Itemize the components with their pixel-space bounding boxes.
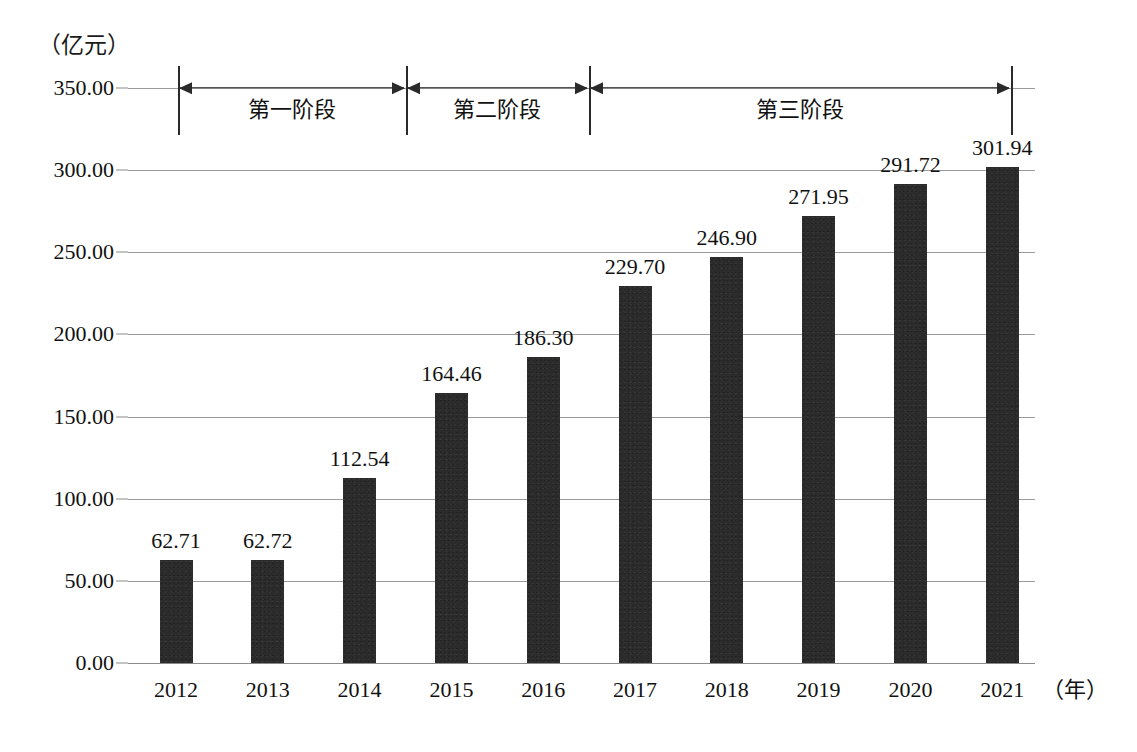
y-axis-tick-label: 50.00 bbox=[18, 570, 114, 592]
y-axis-tick-label: 150.00 bbox=[18, 406, 114, 428]
x-axis-tick-label: 2021 bbox=[980, 679, 1024, 701]
phase-label: 第三阶段 bbox=[756, 99, 844, 121]
y-axis-tick-label: 100.00 bbox=[18, 488, 114, 510]
y-axis-tick-label: 200.00 bbox=[18, 323, 114, 345]
y-axis-tick-mark bbox=[116, 498, 128, 499]
bar-value-label: 186.30 bbox=[513, 327, 574, 349]
x-axis-tick-label: 2019 bbox=[797, 679, 841, 701]
y-axis-tick-label: 300.00 bbox=[18, 159, 114, 181]
x-axis-tick-label: 2014 bbox=[338, 679, 382, 701]
bar bbox=[343, 478, 376, 663]
bar bbox=[160, 560, 193, 663]
x-axis-tick-label: 2013 bbox=[246, 679, 290, 701]
phase-range-arrow bbox=[591, 87, 1009, 88]
bar-value-label: 62.72 bbox=[243, 530, 293, 552]
y-axis-unit-label: （亿元） bbox=[38, 26, 130, 60]
y-axis-tick-label: 0.00 bbox=[18, 652, 114, 674]
phase-range-arrow bbox=[408, 87, 588, 88]
phase-label: 第一阶段 bbox=[248, 99, 336, 121]
bar bbox=[251, 560, 284, 663]
bar-value-label: 62.71 bbox=[151, 530, 201, 552]
bar bbox=[710, 257, 743, 663]
bar bbox=[986, 167, 1019, 663]
y-axis-tick-label: 250.00 bbox=[18, 241, 114, 263]
phase-label: 第二阶段 bbox=[453, 99, 541, 121]
y-axis-tick-mark bbox=[116, 580, 128, 581]
phase-divider-line bbox=[589, 66, 591, 135]
bar-value-label: 291.72 bbox=[880, 154, 941, 176]
x-axis-tick-label: 2020 bbox=[888, 679, 932, 701]
bar-value-label: 246.90 bbox=[697, 227, 758, 249]
bar-value-label: 229.70 bbox=[605, 256, 666, 278]
phase-range-arrow bbox=[180, 87, 404, 88]
phase-divider-line bbox=[1011, 66, 1013, 135]
y-axis-tick-mark bbox=[116, 252, 128, 253]
bar bbox=[619, 286, 652, 663]
bar bbox=[527, 357, 560, 663]
y-axis-tick-mark bbox=[116, 416, 128, 417]
phase-divider-line bbox=[406, 66, 408, 135]
x-axis-tick-label: 2016 bbox=[521, 679, 565, 701]
bar-value-label: 301.94 bbox=[972, 137, 1033, 159]
bar bbox=[435, 393, 468, 663]
x-axis-tick-label: 2017 bbox=[613, 679, 657, 701]
phase-divider-line bbox=[178, 66, 180, 135]
bar bbox=[894, 184, 927, 663]
x-axis-tick-label: 2015 bbox=[429, 679, 473, 701]
bar-value-label: 271.95 bbox=[788, 186, 849, 208]
bar-chart: （亿元） 350.00300.00250.00200.00150.00100.0… bbox=[0, 0, 1137, 752]
x-axis-tick-label: 2018 bbox=[705, 679, 749, 701]
y-axis-tick-mark bbox=[116, 334, 128, 335]
x-axis-tick-label: 2012 bbox=[154, 679, 198, 701]
bar-value-label: 112.54 bbox=[330, 448, 390, 470]
bar-value-label: 164.46 bbox=[421, 363, 482, 385]
gridline bbox=[128, 663, 1035, 664]
y-axis-tick-mark bbox=[116, 170, 128, 171]
y-axis-tick-mark bbox=[116, 663, 128, 664]
x-axis-unit-label: （年） bbox=[1042, 679, 1108, 701]
bar bbox=[802, 216, 835, 663]
y-axis-tick-mark bbox=[116, 88, 128, 89]
plot-area: 350.00300.00250.00200.00150.00100.0050.0… bbox=[128, 88, 1035, 663]
y-axis-tick-label: 350.00 bbox=[18, 77, 114, 99]
